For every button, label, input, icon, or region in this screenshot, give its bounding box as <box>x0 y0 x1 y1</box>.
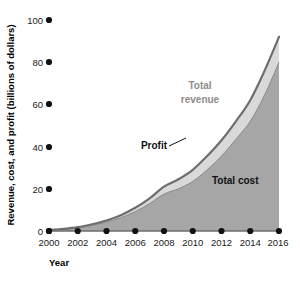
x-tick-label-2002: 2002 <box>67 237 88 248</box>
y-tick-label-100: 100 <box>27 15 43 26</box>
x-axis-tick-labels: 2000 2002 2004 2006 2008 2010 2012 2014 … <box>38 237 288 248</box>
y-tick-label-60: 60 <box>32 99 43 110</box>
x-tick-label-2006: 2006 <box>125 237 146 248</box>
profit-label: Profit <box>141 140 168 151</box>
y-tick-dot-100 <box>46 17 52 23</box>
x-tick-label-2008: 2008 <box>153 237 174 248</box>
x-tick-dot-2016 <box>276 228 282 234</box>
y-tick-label-80: 80 <box>32 57 43 68</box>
y-tick-dot-20 <box>46 186 52 192</box>
y-tick-dot-60 <box>46 101 52 107</box>
x-tick-label-2010: 2010 <box>182 237 203 248</box>
x-tick-label-2016: 2016 <box>267 237 288 248</box>
y-axis-title: Revenue, cost, and profit (billions of d… <box>5 24 16 225</box>
y-tick-label-0: 0 <box>38 226 43 237</box>
y-tick-dot-40 <box>46 144 52 150</box>
y-tick-label-20: 20 <box>32 184 43 195</box>
y-tick-label-40: 40 <box>32 142 43 153</box>
area-chart: 100 80 60 40 20 0 2000 2002 2004 2006 20… <box>0 0 300 285</box>
x-tick-dot-2006 <box>132 228 138 234</box>
total-revenue-label-line2: revenue <box>181 94 220 105</box>
x-tick-label-2012: 2012 <box>211 237 232 248</box>
x-tick-dot-2012 <box>218 228 224 234</box>
total-revenue-label-line1: Total <box>188 80 211 91</box>
x-tick-dot-2010 <box>190 228 196 234</box>
y-tick-dot-80 <box>46 59 52 65</box>
x-tick-dot-2008 <box>161 228 167 234</box>
x-tick-label-2000: 2000 <box>38 237 59 248</box>
x-tick-dot-2000 <box>46 228 52 234</box>
chart-container: 100 80 60 40 20 0 2000 2002 2004 2006 20… <box>0 0 300 285</box>
x-tick-dot-2004 <box>103 228 109 234</box>
total-cost-label: Total cost <box>212 175 259 186</box>
x-tick-dot-2014 <box>247 228 253 234</box>
x-tick-dot-2002 <box>75 228 81 234</box>
x-tick-label-2004: 2004 <box>96 237 117 248</box>
x-axis-title: Year <box>49 257 69 268</box>
x-tick-label-2014: 2014 <box>240 237 261 248</box>
y-axis-tick-labels: 100 80 60 40 20 0 <box>27 15 43 237</box>
